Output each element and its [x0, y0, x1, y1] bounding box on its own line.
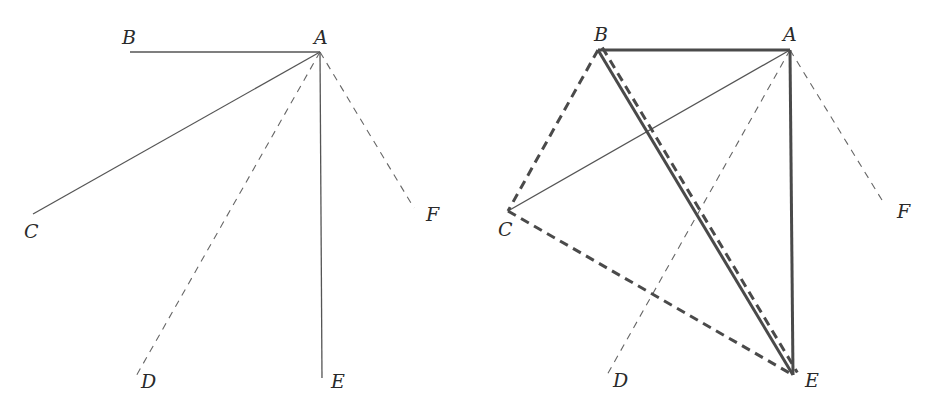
segment-be: [598, 50, 793, 375]
point-label-f: F: [425, 203, 440, 225]
point-label-d: D: [140, 370, 156, 392]
segment-ac: [508, 50, 790, 211]
segment-af: [790, 50, 885, 205]
segment-ae: [320, 52, 322, 378]
point-label-a: A: [781, 23, 797, 45]
point-label-a: A: [312, 26, 328, 48]
segment-bc: [508, 50, 598, 211]
segment-af: [320, 52, 414, 208]
segment-ad: [135, 52, 320, 378]
figure-right-triangles: ABCDEF: [498, 23, 911, 391]
point-label-d: D: [612, 369, 628, 391]
point-label-e: E: [330, 370, 345, 392]
figure-left-star-of-segments: ABCDEF: [24, 26, 440, 392]
geometry-diagram: ABCDEF ABCDEF: [0, 0, 934, 411]
segment-ae: [790, 50, 793, 375]
point-label-c: C: [24, 220, 39, 242]
point-label-b: B: [593, 23, 608, 45]
point-label-f: F: [896, 200, 911, 222]
segment-ac: [33, 52, 320, 214]
point-label-c: C: [498, 218, 513, 240]
point-label-e: E: [804, 369, 819, 391]
point-label-b: B: [121, 26, 136, 48]
